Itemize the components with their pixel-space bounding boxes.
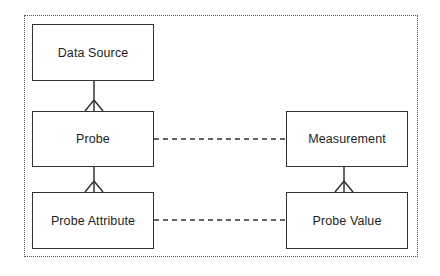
entity-label: Probe Attribute [51,214,135,228]
entity-measurement: Measurement [286,111,408,167]
entity-probe-value: Probe Value [286,192,408,249]
entity-label: Measurement [308,132,386,146]
entity-probe-attribute: Probe Attribute [32,192,154,249]
entity-label: Probe [76,132,110,146]
entity-probe: Probe [32,111,154,167]
entity-label: Data Source [58,46,129,60]
entity-label: Probe Value [313,214,382,228]
entity-data-source: Data Source [32,24,154,81]
